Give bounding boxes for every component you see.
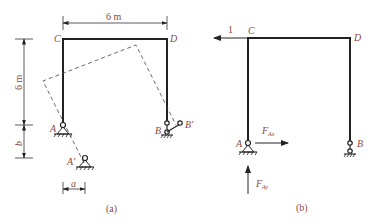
label-A-prime: A'	[66, 156, 76, 167]
height-label: 6 m	[13, 75, 24, 91]
label-B-a: B	[155, 125, 161, 136]
force-Ax-label: FAx	[261, 125, 275, 137]
pin-support-A	[54, 123, 72, 138]
figure-b: 1 C D A FAx FAy B (b)	[214, 24, 363, 214]
force-Ay-label: FAy	[255, 178, 268, 190]
label-B-b: B	[357, 138, 363, 149]
figure-a: 6 m 6 m b A C D	[13, 11, 194, 215]
label-B-prime: B'	[185, 119, 194, 130]
width-label: 6 m	[106, 11, 122, 22]
label-A: A	[49, 123, 57, 134]
frame-original	[63, 39, 167, 123]
settlement-b-label: b	[13, 141, 24, 146]
dimension-a: a	[63, 178, 85, 194]
caption-a: (a)	[106, 203, 117, 215]
label-C-b: C	[248, 25, 255, 36]
label-D-b: D	[353, 32, 362, 43]
settlement-a-label: a	[71, 178, 76, 189]
pin-support-A-prime	[76, 156, 94, 171]
dimension-height: 6 m b	[13, 39, 33, 158]
link-support-B	[161, 121, 182, 138]
structural-frame-diagram: 6 m 6 m b A C D	[0, 0, 376, 224]
label-D-a: D	[169, 33, 178, 44]
unit-load-label: 1	[228, 24, 233, 35]
dimension-width: 6 m	[63, 11, 167, 30]
caption-b: (b)	[296, 202, 308, 214]
label-C-a: C	[54, 33, 61, 44]
label-A-b: A	[235, 138, 243, 149]
support-B-b	[344, 141, 356, 157]
